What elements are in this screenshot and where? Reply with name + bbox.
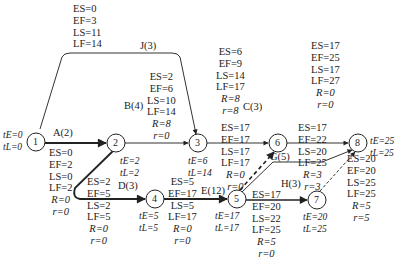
G-r-total: R=3 [298, 169, 327, 181]
B-r-total: R=8 [147, 118, 176, 130]
A-es: ES=0 [49, 147, 72, 159]
d56-ef: EF=17 [221, 134, 250, 146]
G-ef: EF=22 [298, 134, 327, 146]
F68-es: ES=17 [311, 40, 340, 52]
D-es: ES=2 [87, 176, 110, 188]
G-lf: LF=25 [298, 157, 327, 169]
activity-H-label: H(3) [281, 178, 301, 190]
d78-lf: LF=25 [347, 188, 376, 200]
node-7-te: tE=20 [303, 212, 327, 224]
H-ef: EF=20 [252, 201, 281, 213]
node-6-label: 6 [275, 137, 280, 149]
J-ls: LS=11 [73, 27, 102, 39]
E-es: ES=5 [168, 176, 197, 188]
E-ls: LS=5 [168, 200, 197, 212]
node-3-te: tE=6 [188, 156, 212, 168]
C-es: ES=6 [216, 46, 245, 58]
G-es: ES=17 [298, 122, 327, 134]
C-ls: LS=14 [216, 70, 245, 82]
node-4-te: tE=5 [139, 211, 159, 223]
B-ef: EF=6 [147, 83, 176, 95]
F68-lf: LF=27 [311, 75, 340, 87]
d78-r-free: r=5 [347, 212, 376, 224]
J-ef: EF=3 [73, 15, 102, 27]
F68-ls: LS=17 [311, 64, 340, 76]
activity-J-label: J(3) [140, 40, 156, 52]
node-1-te: tE=0 [3, 130, 23, 142]
node-4-times: tE=5 tL=5 [139, 211, 159, 235]
activity-E-params: ES=5 EF=17 LS=5 LF=17 R=0 r=0 [168, 176, 197, 247]
d78-ef: EF=20 [347, 165, 376, 177]
activity-C-params: ES=6 EF=9 LS=14 LF=17 R=8 r=8 [216, 46, 245, 117]
D-ls: LS=2 [87, 200, 110, 212]
A-ef: EF=2 [49, 159, 72, 171]
J-lf: LF=14 [73, 38, 102, 50]
d56-ls: LS=17 [221, 146, 250, 158]
C-ef: EF=9 [216, 58, 245, 70]
F68-r-free: r=0 [311, 99, 340, 111]
H-ls: LS=22 [252, 213, 281, 225]
B-ls: LS=10 [147, 95, 176, 107]
E-r-free: r=0 [168, 235, 197, 247]
node-3-label: 3 [195, 137, 200, 149]
node-4-tl: tL=5 [139, 223, 159, 235]
node-8-te: tE=25 [370, 136, 394, 148]
node-1-times: tE=0 tL=0 [3, 130, 23, 154]
activity-B-label: B(4) [124, 100, 143, 112]
activity-D-params: ES=2 EF=5 LS=2 LF=5 R=0 r=0 [87, 176, 110, 247]
d78-ls: LS=25 [347, 177, 376, 189]
d56-r-free: r=0 [221, 181, 250, 193]
node-2-label: 2 [113, 137, 118, 149]
node-5-te: tE=17 [215, 211, 239, 223]
D-ef: EF=5 [87, 188, 110, 200]
activity-B-params: ES=2 EF=6 LS=10 LF=14 R=8 r=0 [147, 71, 176, 142]
node-4-label: 4 [152, 193, 157, 205]
F68-r-total: R=0 [311, 87, 340, 99]
activity-J-params: ES=0 EF=3 LS=11 LF=14 [73, 3, 102, 50]
node-2-tl: tL=2 [120, 168, 140, 180]
activity-dummy-7-8-params: ES=20 EF=20 LS=25 LF=25 R=5 r=5 [347, 153, 376, 224]
F68-ef: EF=25 [311, 52, 340, 64]
H-r-total: R=5 [252, 236, 281, 248]
node-2-times: tE=2 tL=2 [120, 156, 140, 180]
d78-r-total: R=5 [347, 200, 376, 212]
node-5-times: tE=17 tL=17 [215, 211, 239, 235]
node-7-tl: tL=25 [303, 224, 327, 236]
node-8-label: 8 [355, 137, 360, 149]
activity-H-params: ES=17 EF=20 LS=22 LF=25 R=5 r=0 [252, 189, 281, 258]
activity-G-params: ES=17 EF=22 LS=20 LF=25 R=3 r=3 [298, 122, 327, 193]
activity-A-params: ES=0 EF=2 LS=0 LF=2 R=0 r=0 [49, 147, 72, 218]
C-r-free: r=8 [216, 105, 245, 117]
A-r-free: r=0 [49, 206, 72, 218]
activity-A-label: A(2) [53, 127, 73, 139]
B-es: ES=2 [147, 71, 176, 83]
G-ls: LS=20 [298, 146, 327, 158]
A-r-total: R=0 [49, 194, 72, 206]
d78-es: ES=20 [347, 153, 376, 165]
node-7-label: 7 [314, 194, 319, 206]
E-ef: EF=17 [168, 188, 197, 200]
node-2-te: tE=2 [120, 156, 140, 168]
C-r-total: R=8 [216, 93, 245, 105]
node-7-times: tE=20 tL=25 [303, 212, 327, 236]
B-lf: LF=14 [147, 106, 176, 118]
E-lf: LF=17 [168, 211, 197, 223]
H-lf: LF=25 [252, 224, 281, 236]
d56-lf: LF=17 [221, 157, 250, 169]
activity-6-8-params: ES=17 EF=25 LS=17 LF=27 R=0 r=0 [311, 40, 340, 111]
D-r-free: r=0 [87, 235, 110, 247]
node-1-label: 1 [33, 136, 38, 148]
H-r-free: r=0 [252, 248, 281, 258]
H-es: ES=17 [252, 189, 281, 201]
G-r-free: r=3 [298, 181, 327, 193]
A-lf: LF=2 [49, 182, 72, 194]
B-r-free: r=0 [147, 130, 176, 142]
node-1-tl: tL=0 [3, 142, 23, 154]
activity-C-label: C(3) [243, 101, 262, 113]
A-ls: LS=0 [49, 171, 72, 183]
activity-D-label: D(3) [118, 180, 138, 192]
d56-es: ES=17 [221, 122, 250, 134]
node-5-tl: tL=17 [215, 223, 239, 235]
D-r-total: R=0 [87, 223, 110, 235]
D-lf: LF=5 [87, 211, 110, 223]
